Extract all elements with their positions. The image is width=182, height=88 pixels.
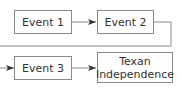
node-label: Event 2 <box>104 17 146 28</box>
node-label: Event 3 <box>22 63 64 74</box>
node-label-line1: Texan <box>119 56 151 67</box>
node-texan-independence: Texan Independence <box>97 52 173 83</box>
node-event-3: Event 3 <box>14 56 72 80</box>
node-label: Event 1 <box>22 17 64 28</box>
node-label-line2: Independence <box>96 69 174 80</box>
node-event-1: Event 1 <box>14 10 72 34</box>
node-event-2: Event 2 <box>97 10 154 34</box>
